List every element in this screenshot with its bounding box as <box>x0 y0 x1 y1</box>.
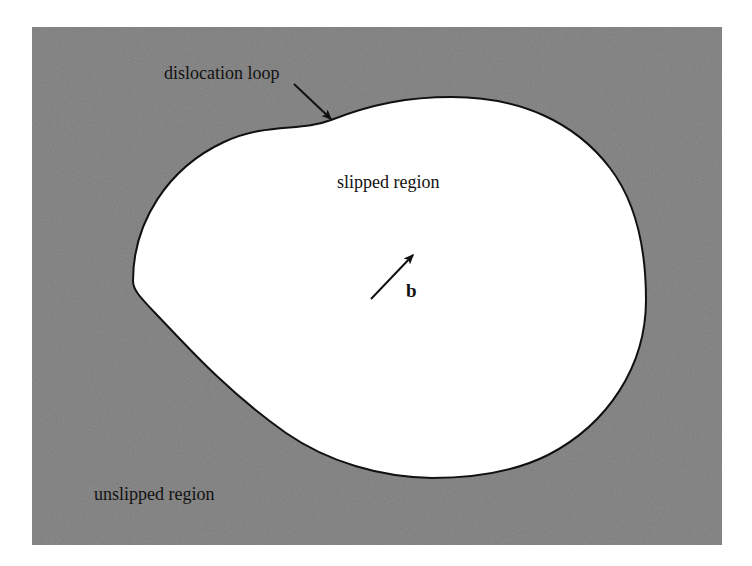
figure-root: dislocation loop slipped region unslippe… <box>0 0 752 566</box>
dislocation-loop-label: dislocation loop <box>164 64 280 82</box>
unslipped-region-label: unslipped region <box>94 485 214 503</box>
slipped-region-label: slipped region <box>337 173 439 191</box>
dislocation-loop-figure <box>0 0 752 566</box>
burgers-vector-label: b <box>406 281 417 300</box>
